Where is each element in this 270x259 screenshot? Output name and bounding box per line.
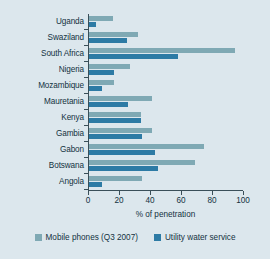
bar-row: Botswana	[0, 158, 270, 174]
legend-item[interactable]: Mobile phones (Q3 2007)	[35, 233, 138, 242]
category-label: Uganda	[0, 14, 84, 30]
bar-group	[88, 110, 270, 126]
legend-label: Mobile phones (Q3 2007)	[46, 233, 138, 242]
bar-row: Uganda	[0, 14, 270, 30]
bar-utility-water	[88, 182, 102, 187]
bar-utility-water	[88, 166, 158, 171]
bar-group	[88, 142, 270, 158]
bar-group	[88, 126, 270, 142]
bar-mobile-phones	[88, 160, 195, 165]
bar-group	[88, 62, 270, 78]
bar-utility-water	[88, 134, 142, 139]
legend-swatch-icon	[154, 234, 161, 241]
category-label: Mauretania	[0, 94, 84, 110]
bar-mobile-phones	[88, 80, 114, 85]
bar-mobile-phones	[88, 48, 235, 53]
chart-figure: UgandaSwazilandSouth AfricaNigeriaMozamb…	[0, 0, 270, 259]
x-axis-tick	[150, 191, 151, 195]
bar-row: Gambia	[0, 126, 270, 142]
plot-area: UgandaSwazilandSouth AfricaNigeriaMozamb…	[0, 14, 270, 190]
bar-utility-water	[88, 102, 128, 107]
bar-mobile-phones	[88, 176, 142, 181]
bar-group	[88, 78, 270, 94]
category-label: Nigeria	[0, 62, 84, 78]
category-label: Kenya	[0, 110, 84, 126]
chart-legend: Mobile phones (Q3 2007)Utility water ser…	[0, 233, 270, 242]
x-axis-tick	[212, 191, 213, 195]
bar-group	[88, 174, 270, 190]
bar-group	[88, 46, 270, 62]
x-axis-ticks: 020406080100	[0, 191, 270, 207]
x-axis-tick	[119, 191, 120, 195]
bar-row: Angola	[0, 174, 270, 190]
bar-mobile-phones	[88, 64, 130, 69]
category-label: Gambia	[0, 126, 84, 142]
x-axis-tick	[88, 191, 89, 195]
bar-group	[88, 158, 270, 174]
x-axis-tick-label: 80	[197, 196, 227, 205]
category-label: Gabon	[0, 142, 84, 158]
category-label: Swaziland	[0, 30, 84, 46]
category-label: Mozambique	[0, 78, 84, 94]
bar-row: Mozambique	[0, 78, 270, 94]
bar-utility-water	[88, 86, 102, 91]
bar-mobile-phones	[88, 112, 141, 117]
x-axis-tick	[243, 191, 244, 195]
x-axis-tick	[181, 191, 182, 195]
bar-row: Kenya	[0, 110, 270, 126]
bar-utility-water	[88, 22, 96, 27]
bar-row: Swaziland	[0, 30, 270, 46]
bar-mobile-phones	[88, 128, 152, 133]
bar-utility-water	[88, 70, 114, 75]
legend-label: Utility water service	[165, 233, 236, 242]
bar-utility-water	[88, 150, 155, 155]
bar-row: Gabon	[0, 142, 270, 158]
bar-group	[88, 94, 270, 110]
bar-group	[88, 14, 270, 30]
category-label: Botswana	[0, 158, 84, 174]
category-label: Angola	[0, 174, 84, 190]
bar-row: South Africa	[0, 46, 270, 62]
bar-row: Mauretania	[0, 94, 270, 110]
legend-swatch-icon	[35, 234, 42, 241]
x-axis-tick-label: 20	[104, 196, 134, 205]
bar-group	[88, 30, 270, 46]
x-axis-tick-label: 40	[135, 196, 165, 205]
bar-mobile-phones	[88, 144, 204, 149]
x-axis-title: % of penetration	[88, 210, 243, 219]
legend-item[interactable]: Utility water service	[154, 233, 236, 242]
y-axis-line	[88, 14, 89, 190]
x-axis-tick-label: 0	[73, 196, 103, 205]
bar-utility-water	[88, 118, 141, 123]
bar-row: Nigeria	[0, 62, 270, 78]
bar-mobile-phones	[88, 32, 138, 37]
bar-utility-water	[88, 54, 178, 59]
x-axis-tick-label: 100	[228, 196, 258, 205]
bar-utility-water	[88, 38, 127, 43]
x-axis-tick-label: 60	[166, 196, 196, 205]
bar-mobile-phones	[88, 96, 152, 101]
category-label: South Africa	[0, 46, 84, 62]
bar-rows: UgandaSwazilandSouth AfricaNigeriaMozamb…	[0, 14, 270, 190]
bar-mobile-phones	[88, 16, 113, 21]
